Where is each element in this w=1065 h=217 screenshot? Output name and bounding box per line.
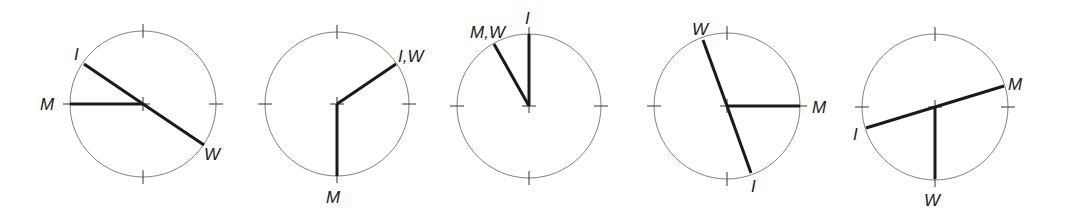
hand-label: I [751, 177, 756, 196]
hand-label: W [924, 191, 942, 210]
hand-label: M [326, 188, 341, 207]
hand-w [143, 104, 204, 145]
hand-i [866, 107, 935, 128]
hand-label: I [525, 9, 530, 28]
hand-m-w [494, 44, 529, 106]
hand-label: M [1008, 75, 1023, 94]
hand-i [84, 64, 143, 104]
hand-m [935, 86, 1004, 107]
hand-label: I,W [398, 47, 425, 66]
clock-diagram-2: I,WM [258, 25, 425, 207]
clock-diagram-1: MIW [40, 24, 223, 184]
clock-diagrams: MIWI,WMIM,WWIMMIW [0, 0, 1065, 217]
hand-w [703, 40, 727, 106]
clock-diagram-3: IM,W [450, 9, 608, 185]
hand-label: W [692, 20, 710, 39]
clock-diagram-4: WIM [647, 20, 827, 196]
hand-label: M [812, 98, 827, 117]
hand-label: M,W [470, 23, 507, 42]
hand-label: W [204, 145, 222, 164]
clock-diagram-5: MIW [853, 27, 1023, 210]
hand-label: M [40, 95, 55, 114]
hand-label: I [74, 45, 79, 64]
hand-i [727, 106, 751, 173]
hand-label: I [853, 125, 858, 144]
hand-i-w [337, 64, 396, 104]
